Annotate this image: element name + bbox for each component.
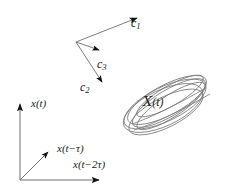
embedding-diagram: c1 c2 c3 x(t) x(t−τ) x(t−2τ) X(t)	[0, 0, 226, 192]
vector-label-c2: c2	[80, 81, 90, 95]
axis-label-x-of-t-minus-2tau: x(t−2τ)	[73, 159, 105, 170]
vector-c1	[76, 18, 137, 42]
vector-c3	[76, 42, 99, 50]
trajectory-label: X(t)	[143, 96, 164, 109]
axis-x-of-t-minus-tau	[20, 152, 48, 180]
diagram-canvas	[0, 0, 226, 192]
axis-label-x-of-t: x(t)	[31, 98, 46, 109]
vector-label-c1: c1	[131, 17, 141, 31]
axis-label-x-of-t-minus-tau: x(t−τ)	[57, 143, 84, 154]
attractor-trajectory-rings	[116, 66, 212, 144]
vector-label-c3: c3	[97, 58, 107, 72]
